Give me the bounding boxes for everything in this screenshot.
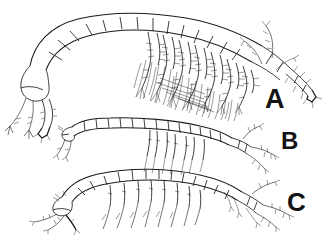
- figure-plate: · ·· ····· ··: [0, 0, 330, 240]
- specimen-c-drawing: [0, 0, 330, 240]
- panel-label-c: C: [287, 189, 306, 215]
